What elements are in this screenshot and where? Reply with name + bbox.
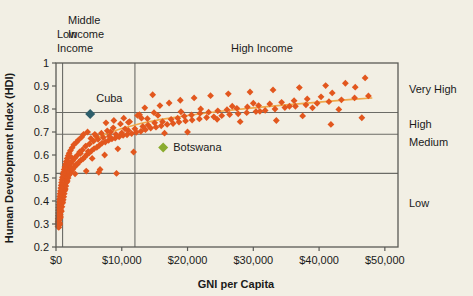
highlight-label-botswana: Botswana <box>173 141 222 153</box>
x-axis-title: GNI per Capita <box>198 278 275 290</box>
highlight-label-cuba: Cuba <box>96 92 123 104</box>
y-tick-label: 0.2 <box>34 241 49 253</box>
y-tick-label: 0.4 <box>34 195 49 207</box>
y-axis-title: Human Development Index (HDI) <box>3 72 15 243</box>
y-tick-label: 0.6 <box>34 149 49 161</box>
hdi-band-label-low: Low <box>409 197 429 209</box>
chart-canvas: CubaBotswana 0.20.30.40.50.60.70.80.91 $… <box>0 0 473 296</box>
y-tick-label: 1 <box>43 57 49 69</box>
y-tick-label: 0.5 <box>34 172 49 184</box>
x-tick-label: $30,000 <box>233 254 273 266</box>
income-band-label-middle: Middle <box>68 14 100 26</box>
y-tick-label: 0.9 <box>34 80 49 92</box>
hdi-band-label-high: High <box>409 118 432 130</box>
y-tick-label: 0.7 <box>34 126 49 138</box>
y-axis-ticks: 0.20.30.40.50.60.70.80.91 <box>34 57 56 253</box>
x-tick-label: $40,000 <box>299 254 339 266</box>
hdi-band-label-medium: Medium <box>409 136 448 148</box>
x-tick-label: $10,000 <box>102 254 142 266</box>
y-tick-label: 0.3 <box>34 218 49 230</box>
hdi-gni-scatter-chart: CubaBotswana 0.20.30.40.50.60.70.80.91 $… <box>0 0 473 296</box>
hdi-band-label-very-high: Very High <box>409 83 457 95</box>
income-band-label-low: Income <box>57 42 93 54</box>
x-tick-label: $50,000 <box>365 254 405 266</box>
x-tick-label: $20,000 <box>168 254 208 266</box>
income-band-label-middle: Income <box>68 28 104 40</box>
y-tick-label: 0.8 <box>34 103 49 115</box>
x-tick-label: $0 <box>50 254 62 266</box>
income-band-label-high: High Income <box>231 42 293 54</box>
